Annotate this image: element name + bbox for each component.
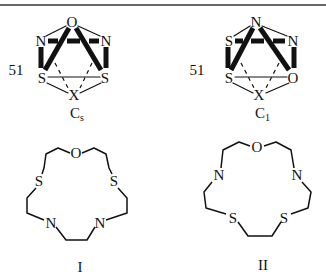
atom-upper-left: N [36, 33, 47, 49]
atom-lower-left: S [38, 70, 46, 86]
symmetry-label: Cs [70, 105, 84, 123]
atom-O: O [71, 145, 82, 161]
atom-S-right: S [280, 210, 288, 226]
compound-caption: II [258, 257, 268, 273]
atom-top: N [251, 14, 262, 30]
macrocycle-I: O S S N N I [27, 145, 127, 275]
compound-number: 51 [190, 62, 205, 78]
macrocycle-II: O N N S S II [204, 139, 311, 273]
atom-upper-right: N [288, 33, 299, 49]
cage-structure-c1: N S N S O X 51 C1 [190, 14, 299, 123]
atom-bottom: X [254, 87, 265, 103]
chemistry-figure: O N N S S X 51 Cs N S N S O X 51 C1 [0, 0, 326, 280]
atom-upper-left: S [225, 33, 233, 49]
atom-bottom: X [69, 87, 80, 103]
atom-N-left: N [46, 215, 57, 231]
atom-S-left: S [35, 173, 43, 189]
compound-caption: I [78, 259, 83, 275]
atom-lower-right: O [288, 70, 299, 86]
atom-upper-right: N [101, 33, 112, 49]
atom-top: O [67, 14, 78, 30]
symmetry-label: C1 [255, 105, 270, 123]
atom-lower-right: S [101, 70, 109, 86]
atom-S-right: S [110, 173, 118, 189]
atom-O: O [252, 139, 263, 155]
atom-lower-left: S [225, 70, 233, 86]
atom-N-right: N [95, 215, 106, 231]
cage-structure-cs: O N N S S X 51 Cs [9, 14, 112, 123]
compound-number: 51 [9, 62, 24, 78]
atom-N-right: N [292, 167, 303, 183]
atom-S-left: S [229, 210, 237, 226]
atom-N-left: N [214, 167, 225, 183]
